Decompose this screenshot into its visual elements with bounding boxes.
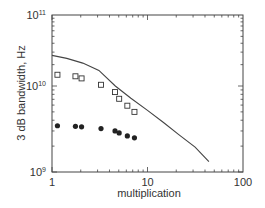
x-tick-label: 100 <box>234 176 252 188</box>
circle-marker <box>125 133 130 138</box>
circle-marker <box>79 124 84 129</box>
chart: 11010010910101011 multiplication 3 dB ba… <box>0 0 265 208</box>
series-theoretical-curve <box>52 55 209 161</box>
square-marker <box>113 90 118 95</box>
circle-marker <box>98 126 103 131</box>
square-marker <box>132 109 137 114</box>
tick-labels: 11010010910101011 <box>26 9 252 188</box>
square-marker <box>73 74 78 79</box>
circle-marker <box>132 135 137 140</box>
square-marker <box>79 76 84 81</box>
square-marker <box>125 103 130 108</box>
data-series <box>52 55 209 161</box>
square-marker <box>55 72 60 77</box>
square-marker <box>117 96 122 101</box>
y-axis-label: 3 dB bandwidth, Hz <box>15 45 27 140</box>
y-tick-label: 1011 <box>26 9 46 21</box>
y-tick-label: 109 <box>30 166 46 178</box>
circle-marker <box>73 124 78 129</box>
circle-marker <box>117 130 122 135</box>
square-marker <box>99 82 104 87</box>
y-tick-label: 1010 <box>26 80 46 92</box>
plot-area-border <box>52 15 243 172</box>
circle-marker <box>55 123 60 128</box>
x-axis-label: multiplication <box>117 187 181 199</box>
plot-frame <box>52 15 243 172</box>
curve-line <box>52 55 209 161</box>
axis-ticks <box>52 15 243 172</box>
x-tick-label: 1 <box>49 176 55 188</box>
series-filled-circles <box>55 123 137 140</box>
